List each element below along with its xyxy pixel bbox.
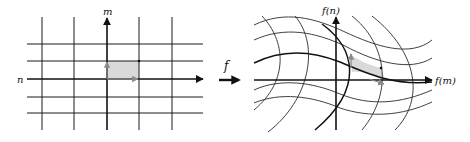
diagram-canvas: n m f f( (0, 0, 470, 142)
m-axis-label: m (103, 6, 112, 17)
n-axis-label: n (17, 74, 23, 85)
f-n-axis-label: f(n) (321, 5, 340, 16)
mapped-horizontal-curves (254, 17, 432, 114)
mapping-f: f (219, 59, 239, 80)
unit-cell-shade (107, 61, 139, 79)
mapped-grid-point-dot (380, 67, 383, 70)
mapping-label: f (223, 59, 231, 73)
f-m-axis-label: f(m) (434, 75, 456, 86)
grid-point-dot (138, 60, 141, 63)
left-grid-panel: n m (17, 6, 203, 130)
right-grid-panel: f(n) f(m) (254, 5, 456, 132)
